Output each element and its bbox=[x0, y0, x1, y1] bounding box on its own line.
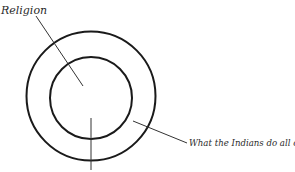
outer-ring-label: What the Indians do all of the time. bbox=[189, 138, 295, 148]
outer-ring-leader-line bbox=[133, 121, 187, 143]
religion-label: Religion bbox=[1, 4, 47, 17]
religion-leader-line bbox=[36, 16, 83, 86]
